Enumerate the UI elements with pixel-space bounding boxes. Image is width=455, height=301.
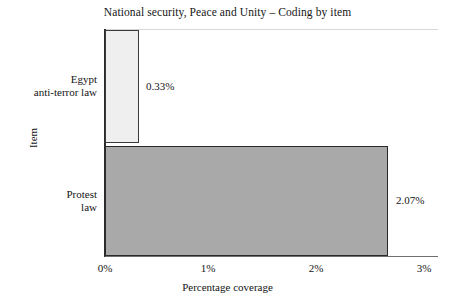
y-category-label-protest-law: Protest law bbox=[66, 188, 97, 214]
y-category-label-protest-line2: law bbox=[66, 201, 97, 214]
x-axis-line bbox=[105, 256, 438, 257]
x-tick-label-1: 1% bbox=[201, 262, 216, 274]
x-tick-label-3: 3% bbox=[417, 262, 432, 274]
bar-protest-law[interactable] bbox=[105, 146, 388, 256]
y-category-label-egypt-line1: Egypt bbox=[34, 73, 97, 86]
x-axis-title: Percentage coverage bbox=[0, 281, 455, 293]
data-label-egypt-anti-terror-law: 0.33% bbox=[146, 80, 174, 92]
x-tick-label-0: 0% bbox=[98, 262, 113, 274]
y-category-label-egypt-anti-terror-law: Egypt anti-terror law bbox=[34, 73, 97, 99]
bar-egypt-anti-terror-law[interactable] bbox=[105, 30, 139, 143]
x-tick-label-2: 2% bbox=[309, 262, 324, 274]
bar-chart: National security, Peace and Unity – Cod… bbox=[0, 0, 455, 301]
y-category-label-egypt-line2: anti-terror law bbox=[34, 86, 97, 99]
chart-title: National security, Peace and Unity – Cod… bbox=[0, 6, 455, 18]
y-axis-title: Item bbox=[27, 123, 39, 153]
y-category-label-protest-line1: Protest bbox=[66, 188, 97, 201]
data-label-protest-law: 2.07% bbox=[396, 194, 424, 206]
